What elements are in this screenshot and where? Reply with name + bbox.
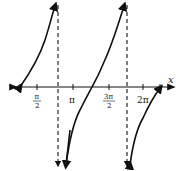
curve-branch-1 <box>20 6 55 87</box>
svg-text:2: 2 <box>107 102 111 110</box>
curve-branch-2 <box>66 6 124 165</box>
svg-text:2: 2 <box>35 102 39 110</box>
tick-label-3pi-over-2: 3π 2 <box>103 93 115 110</box>
tick-label-pi: π <box>69 95 75 105</box>
svg-text:π: π <box>35 93 40 101</box>
x-axis-label: x <box>168 74 174 85</box>
function-curves <box>20 6 160 165</box>
tick-label-2pi: 2π <box>137 95 149 105</box>
tick-label-pi-over-2: π 2 <box>33 93 41 110</box>
tangent-graph: x π 2 π 3π 2 2π <box>0 0 176 171</box>
svg-text:3π: 3π <box>104 93 113 101</box>
